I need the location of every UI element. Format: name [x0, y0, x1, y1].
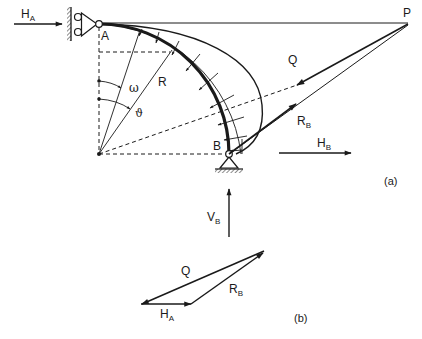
angle-theta	[97, 97, 130, 109]
caption-b: (b)	[294, 312, 307, 324]
label-r-b: RB	[297, 114, 311, 130]
label-point-a: A	[101, 29, 109, 43]
label-h-b: HB	[317, 136, 331, 152]
support-triangle	[82, 13, 98, 36]
force-h-a: HA	[14, 7, 62, 24]
arch-member	[99, 24, 229, 154]
roller-bottom	[75, 29, 82, 36]
load-distribution	[99, 24, 262, 154]
hinge-a	[96, 21, 103, 28]
label-polygon-q: Q	[181, 264, 190, 278]
part-a: HA ω ϑ R	[14, 6, 411, 237]
label-point-b: B	[213, 139, 221, 153]
angle-omega	[97, 79, 121, 88]
caption-a: (a)	[384, 175, 397, 187]
arc-center-point	[97, 152, 101, 156]
label-point-p: P	[403, 6, 411, 20]
label-omega: ω	[129, 81, 139, 95]
label-v-b: VB	[207, 210, 220, 226]
label-q: Q	[288, 53, 297, 67]
pin-support-b	[215, 157, 243, 173]
label-h-a: HA	[21, 7, 36, 23]
force-q-arrow	[297, 24, 408, 85]
part-b-force-polygon: Q RB HA (b)	[141, 251, 307, 324]
label-theta: ϑ	[135, 107, 143, 120]
label-polygon-h-a: HA	[160, 307, 175, 323]
force-v-b: VB	[207, 189, 229, 237]
load-envelope-curve	[101, 24, 262, 154]
wall-support-a	[67, 7, 97, 41]
load-arrows	[139, 29, 247, 151]
label-polygon-r-b: RB	[229, 282, 243, 298]
radius-line-r	[99, 50, 172, 154]
force-h-b: HB	[279, 136, 351, 153]
three-hinged-arch-diagram: HA ω ϑ R	[0, 0, 422, 339]
label-radius: R	[158, 75, 167, 89]
roller-top	[75, 14, 82, 21]
